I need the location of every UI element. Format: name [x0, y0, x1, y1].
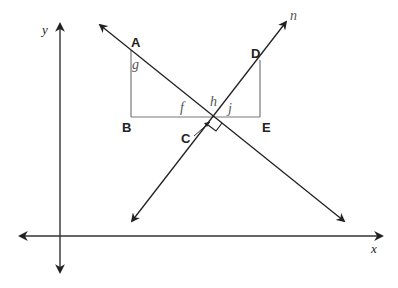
right-angle-marker	[208, 123, 222, 131]
point-d-label: D	[251, 46, 260, 61]
point-e-label: E	[262, 120, 271, 135]
line-n-label: n	[290, 8, 297, 23]
geometry-diagram: y x n A B C D E g f h j	[0, 0, 398, 288]
x-axis-label: x	[370, 241, 377, 256]
angle-f-label: f	[180, 100, 186, 115]
point-c-label: C	[181, 131, 191, 146]
point-a-label: A	[131, 35, 141, 50]
point-b-label: B	[122, 120, 131, 135]
angle-h-label: h	[210, 94, 217, 109]
triangle-dec	[214, 60, 260, 117]
angle-g-label: g	[132, 57, 139, 72]
angle-j-label: j	[226, 101, 232, 116]
y-axis-label: y	[40, 22, 48, 37]
point-c-pointer	[194, 122, 210, 136]
